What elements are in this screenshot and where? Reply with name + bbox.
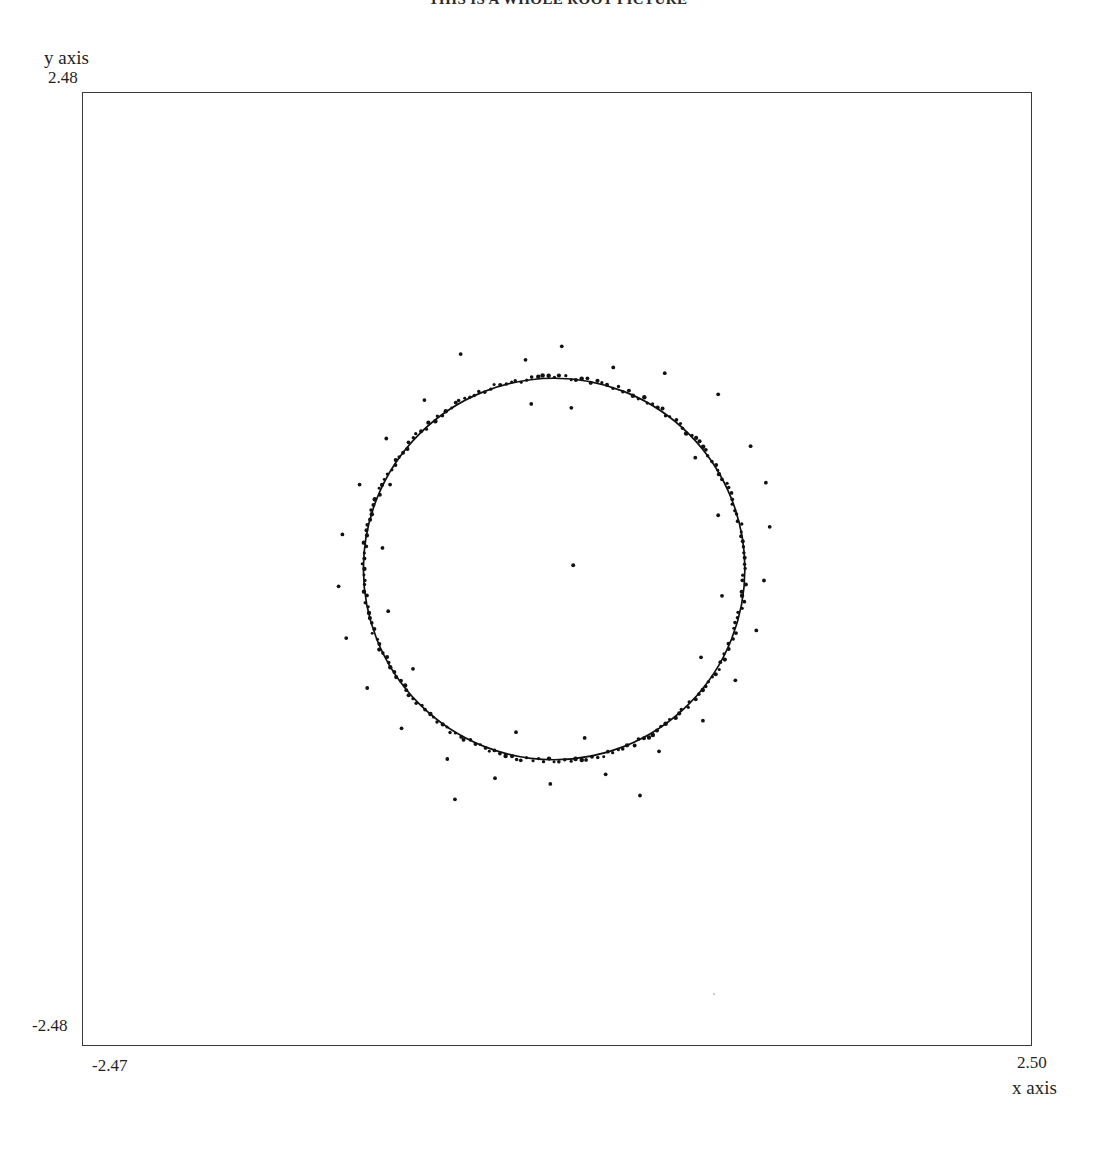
- page-title: THIS IS A WHOLE ROOT PICTURE: [0, 0, 1116, 8]
- plot-frame: [82, 92, 1032, 1046]
- root-center-point: [571, 563, 575, 567]
- root-ring-series: [361, 373, 748, 763]
- y-axis-max-tick: 2.48: [48, 68, 78, 88]
- x-axis-min-tick: -2.47: [92, 1056, 127, 1076]
- x-axis-max-tick: 2.50: [1017, 1053, 1047, 1073]
- scatter-plot-canvas: [83, 93, 1031, 1045]
- y-axis-min-tick: -2.48: [32, 1016, 67, 1036]
- y-axis-label: y axis: [44, 47, 89, 69]
- x-axis-label: x axis: [1012, 1077, 1057, 1099]
- scan-artifact-speck: [713, 993, 715, 995]
- root-outlier-series: [337, 344, 772, 801]
